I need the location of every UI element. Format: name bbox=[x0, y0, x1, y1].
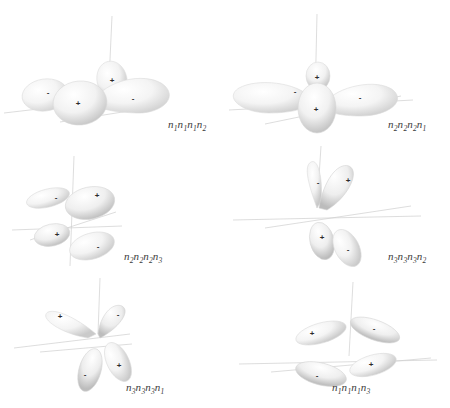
lobe-sign: + bbox=[95, 192, 100, 200]
panel-label-1: n1n1n1n2 bbox=[168, 118, 206, 130]
label-term: n1 bbox=[155, 381, 165, 393]
panel-label-5: n3n3n3n1 bbox=[126, 381, 164, 393]
orbital-panel-3: - + + - n2n2n2n3 bbox=[0, 136, 225, 272]
label-term: n1 bbox=[417, 118, 427, 130]
lobe-sign: + bbox=[314, 106, 319, 114]
lobe-sign: + bbox=[310, 330, 315, 338]
label-term: n1 bbox=[168, 118, 178, 130]
lobe-sign: + bbox=[76, 100, 81, 108]
label-term: n3 bbox=[361, 381, 371, 393]
label-term: n1 bbox=[342, 381, 352, 393]
lobe-sign: - bbox=[97, 243, 100, 251]
lobe-sign: - bbox=[55, 194, 58, 202]
orbital-lobes-3 bbox=[24, 182, 117, 265]
label-term: n2 bbox=[143, 250, 153, 262]
lobe-sign: - bbox=[373, 325, 376, 333]
lobe-sign: - bbox=[132, 95, 135, 103]
label-term: n1 bbox=[332, 381, 342, 393]
lobe-sign: - bbox=[347, 246, 350, 254]
orbital-panel-1: - + + - n1n1n1n2 bbox=[0, 0, 225, 136]
panel-label-4: n3n3n3n2 bbox=[388, 250, 426, 262]
orbital-panel-2: - + + - n2n2n2n1 bbox=[225, 0, 450, 136]
label-term: n2 bbox=[407, 118, 417, 130]
lobe-sign: + bbox=[58, 313, 63, 321]
orbital-lobes-1 bbox=[20, 58, 169, 127]
lobe-sign: - bbox=[84, 371, 87, 379]
label-term: n3 bbox=[153, 250, 163, 262]
panel-label-6: n1n1n1n3 bbox=[332, 381, 370, 393]
label-term: n1 bbox=[178, 118, 188, 130]
label-term: n1 bbox=[187, 118, 197, 130]
lobe-sign: - bbox=[359, 94, 362, 102]
label-term: n2 bbox=[388, 118, 398, 130]
label-term: n2 bbox=[398, 118, 408, 130]
label-term: n3 bbox=[136, 381, 146, 393]
label-term: n3 bbox=[388, 250, 398, 262]
lobe-sign: + bbox=[117, 362, 122, 370]
label-term: n2 bbox=[417, 250, 427, 262]
label-term: n2 bbox=[124, 250, 134, 262]
orbital-render-2 bbox=[225, 0, 450, 136]
lobe-sign: + bbox=[110, 77, 115, 85]
orbital-panel-5: + - - + n3n3n3n1 bbox=[0, 272, 225, 408]
orbital-render-5 bbox=[0, 272, 225, 408]
lobe-sign: - bbox=[294, 88, 297, 96]
lobe-sign: - bbox=[317, 179, 320, 187]
label-term: n3 bbox=[126, 381, 136, 393]
label-term: n1 bbox=[351, 381, 361, 393]
orbital-figure: - + + - n1n1n1n2 bbox=[0, 0, 450, 408]
orbital-lobes-4 bbox=[306, 162, 367, 272]
label-term: n3 bbox=[398, 250, 408, 262]
orbital-render-3 bbox=[0, 136, 225, 272]
orbital-lobes-6 bbox=[293, 312, 403, 391]
lobe-sign: + bbox=[369, 361, 374, 369]
orbital-panel-6: + - - + n1n1n1n3 bbox=[225, 272, 450, 408]
label-term: n3 bbox=[407, 250, 417, 262]
label-term: n2 bbox=[197, 118, 207, 130]
lobe-sign: + bbox=[55, 231, 60, 239]
lobe-sign: - bbox=[117, 311, 120, 319]
orbital-render-1 bbox=[0, 0, 225, 136]
label-term: n2 bbox=[134, 250, 144, 262]
lobe-sign: + bbox=[346, 177, 351, 185]
lobe-sign: - bbox=[316, 372, 319, 380]
lobe-sign: + bbox=[320, 234, 325, 242]
label-term: n3 bbox=[145, 381, 155, 393]
lobe-sign: - bbox=[47, 89, 50, 97]
orbital-panel-4: - + + - n3n3n3n2 bbox=[225, 136, 450, 272]
panel-label-2: n2n2n2n1 bbox=[388, 118, 426, 130]
panel-label-3: n2n2n2n3 bbox=[124, 250, 162, 262]
lobe-sign: + bbox=[315, 74, 320, 82]
